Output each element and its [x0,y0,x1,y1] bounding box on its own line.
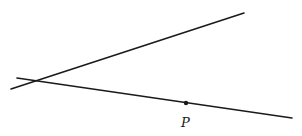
point-p-label: P [180,115,190,130]
point-p [184,101,188,105]
lower-line [17,78,292,118]
upper-line [11,13,244,89]
geometry-diagram: P [0,0,302,136]
